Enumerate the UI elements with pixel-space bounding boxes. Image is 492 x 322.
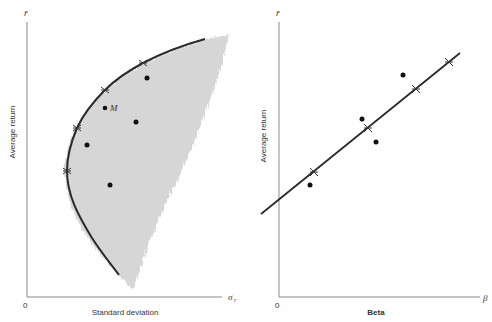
right-x-symbol: β [482,293,488,303]
asset-point [360,117,365,122]
figure: M r̄ 0 σ r Standard deviation Average re… [0,0,492,322]
asset-point [85,143,90,148]
x-marker-icon [364,124,372,132]
x-marker-icon [412,85,420,93]
left-chart: M r̄ 0 σ r Standard deviation Average re… [8,8,237,317]
asset-point [134,120,139,125]
asset-point [108,183,113,188]
left-x-axis-label: Standard deviation [92,308,159,317]
right-origin-label: 0 [275,301,280,310]
asset-point [401,73,406,78]
right-y-axis-label: Average return [259,110,268,163]
left-origin-label: 0 [23,301,28,310]
x-marker-icon [310,168,318,176]
left-y-symbol: r̄ [24,8,28,18]
security-market-line [261,53,460,214]
market-portfolio-point [103,106,108,111]
asset-point [145,76,150,81]
asset-points-beta [308,73,406,188]
left-x-symbol: σ [228,292,233,302]
x-marker-icon [445,58,453,66]
feasible-region [65,35,229,290]
right-x-axis-label: Beta [367,308,385,317]
right-y-symbol: r̄ [276,8,280,18]
right-chart: r̄ 0 β Beta Average return [259,8,488,317]
market-portfolio-label: M [109,103,118,113]
asset-point [308,183,313,188]
left-x-symbol-sub: r [234,297,237,303]
asset-point [374,140,379,145]
left-y-axis-label: Average return [8,106,17,159]
